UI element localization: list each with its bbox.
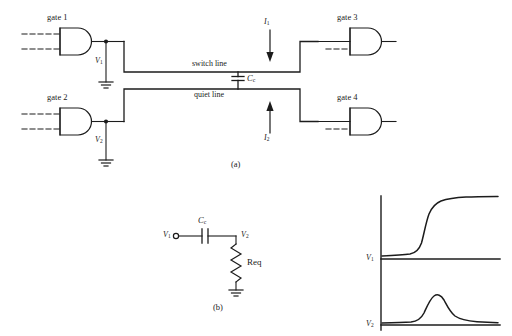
gate-3-symbol xyxy=(350,28,396,55)
waveform-v1-label: V1 xyxy=(366,254,374,263)
panel-a-caption: (a) xyxy=(231,160,240,169)
b-node-v1-label: V1 xyxy=(163,231,171,240)
capacitor-symbol-b xyxy=(202,229,208,243)
waveform-trace-v1 xyxy=(382,196,498,256)
ground-symbol-b xyxy=(229,290,243,296)
ground-symbol-v1 xyxy=(99,82,113,88)
current-i1-label: I1 xyxy=(264,18,269,27)
current-i2-label: I2 xyxy=(264,134,269,143)
node-v1-subscript: 1 xyxy=(100,59,103,65)
node-v2-subscript: 2 xyxy=(100,138,103,144)
waveform-axes xyxy=(381,196,500,330)
waveform-v2-subscript: 2 xyxy=(371,322,374,328)
current-i1-subscript: 1 xyxy=(267,20,270,26)
resistor-symbol-req xyxy=(231,244,241,282)
b-resistor-label: Req xyxy=(247,258,262,267)
gate-2-label: gate 2 xyxy=(47,93,68,102)
coupling-capacitor-label: Cc xyxy=(247,74,255,84)
gate-1-symbol xyxy=(60,28,106,55)
figure-vector-layer xyxy=(0,0,512,336)
switch-line-label: switch line xyxy=(192,60,227,68)
current-arrow-i1 xyxy=(266,30,273,62)
b-node-v2-subscript: 2 xyxy=(246,233,249,239)
coupling-capacitor-subscript: c xyxy=(253,77,256,83)
gate-1-label: gate 1 xyxy=(47,13,68,22)
gate-1-input-leads xyxy=(22,34,60,49)
b-capacitor-label: Cc xyxy=(198,216,206,226)
panel-b-caption: (b) xyxy=(213,303,223,312)
waveform-trace-v2 xyxy=(382,295,498,323)
quiet-line-label: quiet line xyxy=(194,91,224,99)
b-node-v1-subscript: 1 xyxy=(168,233,171,239)
gate-4-label: gate 4 xyxy=(337,93,358,102)
b-node-v2-label: V2 xyxy=(241,231,249,240)
figure-crosstalk-coupling: gate 1 gate 2 gate 3 gate 4 switch line … xyxy=(0,0,512,336)
gate-2-symbol xyxy=(60,108,106,135)
node-v2-label: V2 xyxy=(95,136,103,145)
waveform-v1-subscript: 1 xyxy=(371,256,374,262)
gate-2-input-leads xyxy=(22,114,60,129)
gate-4-symbol xyxy=(350,108,396,135)
coupling-capacitor-symbol xyxy=(232,72,244,89)
b-capacitor-subscript: c xyxy=(204,219,207,225)
node-v1-label: V1 xyxy=(95,57,103,66)
terminal-v1-node xyxy=(173,233,178,238)
current-i2-subscript: 2 xyxy=(267,136,270,142)
waveform-v2-label: V2 xyxy=(366,320,374,329)
ground-symbol-v2 xyxy=(99,160,113,166)
gate-3-label: gate 3 xyxy=(337,13,358,22)
current-arrow-i2 xyxy=(266,101,273,133)
